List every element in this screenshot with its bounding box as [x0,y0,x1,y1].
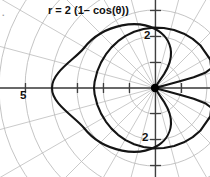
label-radius-2-bottom: 2 [142,132,148,144]
axes [0,0,210,177]
label-radius-2-top: 2 [144,30,150,42]
polar-plot-figure: . [0,0,210,177]
label-axis-tick-5: 5 [20,90,26,102]
polar-plot-canvas [0,0,210,177]
pole-point [151,84,159,92]
equation-label: r = 2 (1– cos(θ)) [48,5,129,16]
